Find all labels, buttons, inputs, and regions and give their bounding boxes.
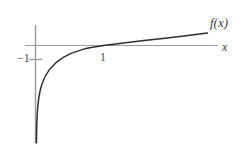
y-tick-label-minus-one: −1: [17, 52, 30, 64]
function-label: f(x): [210, 16, 228, 29]
plot-canvas: [0, 0, 242, 146]
x-axis-label: x: [222, 41, 227, 53]
x-tick-label-one: 1: [100, 51, 106, 63]
logarithm-plot-figure: f(x) x −1 1: [0, 0, 242, 146]
function-curve-ln: [36, 33, 207, 143]
